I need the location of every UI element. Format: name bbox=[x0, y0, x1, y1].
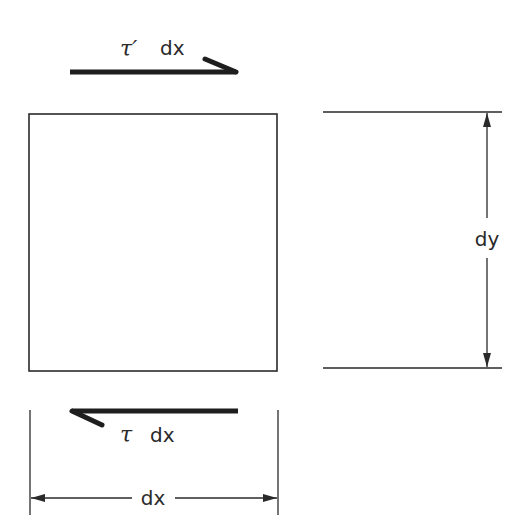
element-square bbox=[29, 114, 277, 371]
dy-dimension-label: dy bbox=[475, 227, 500, 251]
dx-arrowhead-right bbox=[263, 494, 277, 502]
top-shear-dx-label: dx bbox=[160, 36, 185, 60]
shear-element-diagram: τ′ dx τ dx dx dy bbox=[0, 0, 522, 524]
top-shear-symbol: τ′ bbox=[120, 36, 137, 61]
top-shear-arrow bbox=[70, 59, 236, 72]
bottom-shear-symbol: τ bbox=[120, 422, 133, 447]
dx-dimension-label: dx bbox=[141, 486, 166, 510]
bottom-shear-dx-label: dx bbox=[150, 423, 175, 447]
dy-arrowhead-bottom bbox=[483, 353, 491, 367]
dy-arrowhead-top bbox=[483, 113, 491, 127]
dx-arrowhead-left bbox=[31, 494, 45, 502]
